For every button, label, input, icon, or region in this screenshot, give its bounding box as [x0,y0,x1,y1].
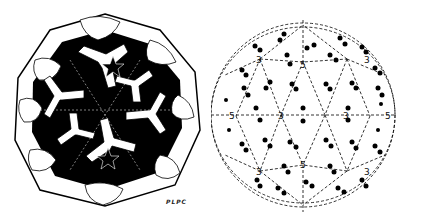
five-fold-label: 5 [385,111,391,121]
capsid-illustration [0,0,211,221]
three-fold-label: 3 [278,111,284,121]
symmetry-schematic: 5 5 5 5 3 3 3 3 3 3 [211,0,422,221]
three-fold-label: 3 [364,167,370,177]
five-fold-label: 5 [300,60,306,70]
five-fold-label: 5 [229,111,235,121]
three-fold-label: 3 [256,55,262,65]
five-fold-label: 5 [300,160,306,170]
icosahedral-lattice: 5 5 5 5 3 3 3 3 3 3 [211,0,422,221]
artist-signature: PLPC [166,198,187,205]
three-fold-label: 3 [256,167,262,177]
three-fold-label: 3 [364,55,370,65]
subunit-dots [224,32,385,196]
capsid-drawing: PLPC [0,0,211,221]
